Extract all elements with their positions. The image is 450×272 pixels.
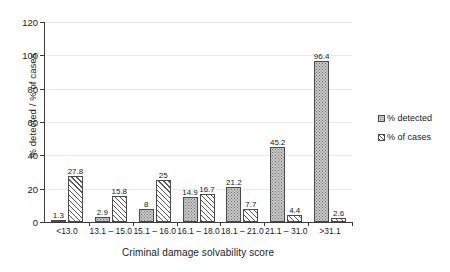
bar-detected[interactable]: 2.9 [95, 217, 110, 222]
bar-value-label: 15.8 [111, 188, 127, 196]
bar-value-label: 2.9 [97, 209, 108, 217]
bar-cases[interactable]: 7.7 [243, 209, 258, 222]
x-axis-tick-label: <13.0 [45, 226, 89, 236]
y-axis-tick-label: 40 [27, 150, 38, 161]
bar-detected[interactable]: 14.9 [183, 197, 198, 222]
bar-detected[interactable]: 45.2 [270, 147, 285, 222]
y-axis-tick-label: 100 [22, 50, 38, 61]
y-axis-tick-label: 60 [27, 117, 38, 128]
bar-value-label: 16.7 [199, 186, 215, 194]
x-axis-tick-mark [352, 222, 353, 226]
bar-value-label: 96.4 [314, 53, 330, 61]
chart-figure: % detected / % of cases 020406080100120 … [0, 0, 450, 272]
bar-value-label: 21.2 [226, 179, 242, 187]
y-axis-tick-label: 120 [22, 17, 38, 28]
bar-group: 14.916.7 [177, 22, 221, 222]
legend-item[interactable]: % of cases [378, 132, 432, 142]
x-axis-tick-label: 21.1 – 31.0 [264, 226, 308, 236]
y-axis-tick-label: 0 [33, 217, 38, 228]
chart-legend: % detected% of cases [378, 113, 432, 142]
x-axis-tick-label: 13.1 – 15.0 [89, 226, 133, 236]
x-axis-tick-label: 15.1 – 16.0 [133, 226, 177, 236]
bar-group: 825 [133, 22, 177, 222]
y-axis-tick-mark [40, 222, 44, 223]
bar-value-label: 25 [159, 172, 168, 180]
y-axis-tick-mark [40, 155, 44, 156]
legend-swatch-icon [378, 115, 385, 122]
bar-cases[interactable]: 15.8 [112, 196, 127, 222]
legend-item-label: % of cases [387, 132, 431, 142]
legend-item[interactable]: % detected [378, 113, 432, 123]
y-axis-tick-mark [40, 22, 44, 23]
bar-value-label: 14.9 [182, 189, 198, 197]
bar-value-label: 2.6 [333, 210, 344, 218]
bar-cases[interactable]: 2.6 [331, 218, 346, 222]
bar-detected[interactable]: 96.4 [314, 61, 329, 222]
bar-value-label: 27.8 [68, 168, 84, 176]
x-axis-tick-label: >31.1 [308, 226, 352, 236]
y-axis-tick-label: 80 [27, 83, 38, 94]
y-axis-tick-mark [40, 55, 44, 56]
bar-value-label: 4.4 [289, 207, 300, 215]
bar-group: 45.24.4 [264, 22, 308, 222]
x-axis-tick-label: 16.1 – 18.0 [177, 226, 221, 236]
bar-value-label: 8 [144, 201, 148, 209]
bar-cases[interactable]: 4.4 [287, 215, 302, 222]
bar-value-label: 7.7 [245, 201, 256, 209]
bar-groups: 1.327.82.915.882514.916.721.27.745.24.49… [45, 22, 352, 222]
bar-group: 1.327.8 [45, 22, 89, 222]
bar-detected[interactable]: 1.3 [51, 220, 66, 222]
legend-item-label: % detected [387, 113, 432, 123]
bar-group: 2.915.8 [89, 22, 133, 222]
x-axis-title: Criminal damage solvability score [44, 247, 352, 258]
bar-group: 21.27.7 [220, 22, 264, 222]
bar-detected[interactable]: 21.2 [226, 187, 241, 222]
plot-area: 020406080100120 1.327.82.915.882514.916.… [44, 22, 352, 222]
y-axis-title: % detected / % of cases [27, 11, 38, 201]
bar-group: 96.42.6 [308, 22, 352, 222]
bar-value-label: 1.3 [53, 212, 64, 220]
bar-cases[interactable]: 27.8 [68, 176, 83, 222]
bar-cases[interactable]: 25 [156, 180, 171, 222]
x-axis-tick-labels: <13.013.1 – 15.015.1 – 16.016.1 – 18.018… [45, 226, 352, 236]
y-axis-tick-mark [40, 89, 44, 90]
x-axis-tick-label: 18.1 – 21.0 [220, 226, 264, 236]
bar-cases[interactable]: 16.7 [200, 194, 215, 222]
legend-swatch-icon [378, 134, 385, 141]
y-axis-tick-mark [40, 122, 44, 123]
bar-detected[interactable]: 8 [139, 209, 154, 222]
x-axis-line [44, 222, 352, 223]
y-axis-tick-label: 20 [27, 183, 38, 194]
y-axis-tick-mark [40, 189, 44, 190]
bar-value-label: 45.2 [270, 139, 286, 147]
